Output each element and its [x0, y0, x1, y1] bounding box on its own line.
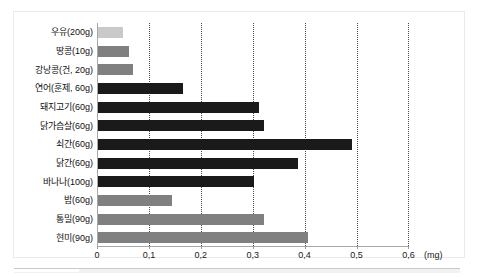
gridline-6 [408, 23, 410, 246]
gridline-5 [357, 23, 359, 246]
bar-3 [98, 83, 183, 94]
x-axis-unit-label: (mg) [424, 250, 443, 260]
tick-mark-0 [97, 246, 98, 249]
bar-11 [98, 232, 308, 243]
x-tick-label-3: 0,3 [236, 250, 270, 260]
chart-figure: 00,10,20,30,40,50,6 (mg) 우유(200g)땅콩(10g)… [0, 0, 479, 277]
category-labels: 우유(200g)땅콩(10g)강낭콩(건, 20g)연어(훈제, 60g)돼지고… [0, 0, 93, 277]
category-label-4: 돼지고기(60g) [40, 102, 93, 112]
bar-0 [98, 27, 123, 38]
bar-8 [98, 176, 254, 187]
bottom-strip [14, 268, 460, 273]
tick-mark-4 [305, 246, 306, 249]
x-tick-label-4: 0,4 [288, 250, 322, 260]
bar-9 [98, 195, 172, 206]
bar-6 [98, 139, 352, 150]
category-label-5: 닭가슴살(60g) [40, 121, 93, 131]
category-label-9: 밤(60g) [64, 195, 93, 205]
category-label-11: 현미(90g) [56, 233, 93, 243]
category-label-3: 연어(훈제, 60g) [35, 83, 93, 93]
bar-5 [98, 120, 264, 131]
bar-10 [98, 214, 264, 225]
category-label-10: 통밀(90g) [56, 214, 93, 224]
category-label-7: 닭간(60g) [56, 158, 93, 168]
category-label-0: 우유(200g) [51, 27, 93, 37]
tick-mark-2 [201, 246, 202, 249]
tick-mark-6 [408, 246, 409, 249]
x-tick-label-6: 0,6 [391, 250, 425, 260]
bar-4 [98, 102, 259, 113]
category-label-2: 강낭콩(건, 20g) [35, 65, 93, 75]
bar-7 [98, 158, 298, 169]
bar-2 [98, 64, 133, 75]
tick-mark-1 [149, 246, 150, 249]
category-label-1: 땅콩(10g) [56, 46, 93, 56]
x-tick-label-5: 0,5 [340, 250, 374, 260]
x-tick-label-2: 0,2 [184, 250, 218, 260]
bar-1 [98, 46, 129, 57]
x-tick-label-1: 0,1 [132, 250, 166, 260]
bottom-strip-fill [14, 269, 79, 272]
category-label-8: 바나나(100g) [43, 177, 93, 187]
tick-mark-5 [357, 246, 358, 249]
category-label-6: 쇠간(60g) [56, 139, 93, 149]
gridline-4 [305, 23, 307, 246]
tick-mark-3 [253, 246, 254, 249]
